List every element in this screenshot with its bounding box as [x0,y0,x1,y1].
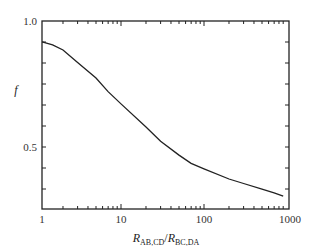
plot-frame [42,21,289,209]
data-line [42,42,283,196]
y-tick-label-0.5: 0.5 [23,141,37,153]
x-tick-label-10: 10 [116,213,128,225]
y-tick-label-1: 1.0 [23,15,37,27]
x-label-sub1: AB,CD [140,238,164,247]
x-label-sub2: BC,DA [175,238,199,247]
y-axis-label: f [14,83,19,97]
x-axis-label: RAB,CD/RBC,DA [132,231,200,247]
chart: 1.0 0.5 1 10 100 1000 f RAB,CD/RBC,DA [0,0,318,249]
axis-ticks [42,21,289,209]
x-tick-label-1: 1 [39,213,45,225]
x-tick-label-1000: 1000 [279,213,302,225]
x-tick-label-100: 100 [196,213,213,225]
